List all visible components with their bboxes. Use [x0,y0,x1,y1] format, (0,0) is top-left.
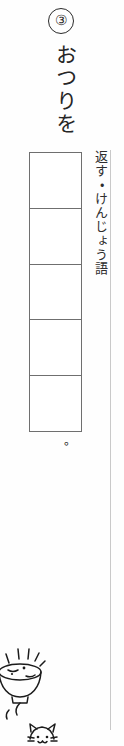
answer-grid[interactable] [29,152,82,432]
answer-cell[interactable] [30,153,81,209]
cat-and-bowl-doodle-icon [0,640,70,746]
sentence-period-mark: 。 [64,437,73,446]
question-prompt-text: おつりを [47,44,77,136]
worksheet-page: ③ おつりを 返す・けんじょう語 。 [0,0,124,746]
question-number: ③ [48,8,74,34]
answer-cell[interactable] [30,320,81,376]
page-margin-rule [110,150,111,730]
answer-cell[interactable] [30,209,81,265]
answer-cell[interactable] [30,265,81,321]
answer-hint-annotation: 返す・けんじょう語 [88,150,108,276]
answer-cell[interactable] [30,376,81,431]
